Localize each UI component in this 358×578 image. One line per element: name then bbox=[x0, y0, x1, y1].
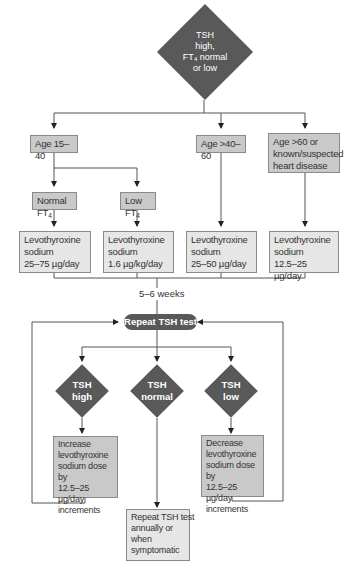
subscript: 4 bbox=[48, 212, 51, 219]
decision-text: high bbox=[72, 391, 92, 403]
box-text: Increase bbox=[58, 439, 113, 450]
box-text: sodium bbox=[191, 246, 252, 258]
decision-text: TSH bbox=[196, 30, 214, 41]
box-text: sodium bbox=[24, 246, 86, 258]
box-text: Levothyroxine bbox=[191, 234, 252, 246]
dose-box-low-ft4: Levothyroxine sodium 1.6 µg/kg/day bbox=[103, 231, 174, 273]
outcome-tsh-normal: TSH normal bbox=[130, 364, 184, 418]
decision-text: TSH bbox=[148, 379, 167, 391]
box-text: annually or bbox=[131, 523, 185, 534]
box-text: levothyroxine bbox=[206, 449, 259, 460]
box-text: when bbox=[131, 534, 185, 545]
box-text: heart disease bbox=[273, 160, 335, 172]
start-decision-tsh-high: TSH high, FT₄ normal or low bbox=[168, 4, 242, 100]
repeat-tsh-test-node: Repeat TSH test bbox=[124, 314, 197, 330]
box-text: levothyroxine bbox=[58, 450, 113, 461]
box-text: sodium dose by bbox=[58, 461, 113, 483]
age-40-60-box: Age >40–60 bbox=[196, 135, 246, 153]
box-text: increments bbox=[58, 505, 113, 516]
box-text: 12.5–25 µg/day bbox=[274, 258, 334, 282]
increase-dose-box: Increase levothyroxine sodium dose by 12… bbox=[53, 436, 118, 498]
box-text: 1.6 µg/kg/day bbox=[108, 258, 169, 270]
decision-text: low bbox=[223, 391, 239, 403]
box-text: 12.5–25 µg/day bbox=[58, 483, 113, 505]
box-text: 25–50 µg/day bbox=[191, 258, 252, 270]
box-text: Levothyroxine bbox=[108, 234, 169, 246]
dose-box-age-40-60: Levothyroxine sodium 25–50 µg/day bbox=[186, 231, 257, 273]
box-text: Decrease bbox=[206, 438, 259, 449]
box-text: sodium bbox=[108, 246, 169, 258]
age-60-heart-disease-box: Age >60 or known/suspected heart disease bbox=[268, 133, 340, 173]
box-text: 12.5–25 µg/day bbox=[206, 482, 259, 504]
box-text: Levothyroxine bbox=[274, 234, 334, 246]
decision-text: normal bbox=[141, 391, 173, 403]
interval-label: 5–6 weeks bbox=[139, 288, 184, 299]
box-text: Repeat TSH test bbox=[131, 512, 185, 523]
decrease-dose-box: Decrease levothyroxine sodium dose by 12… bbox=[201, 435, 264, 497]
decision-text: FT₄ normal bbox=[183, 52, 228, 63]
repeat-annually-box: Repeat TSH test annually or when symptom… bbox=[126, 509, 190, 561]
box-text: increments bbox=[206, 504, 259, 515]
dose-box-age-60: Levothyroxine sodium 12.5–25 µg/day bbox=[269, 231, 339, 273]
decision-text: TSH bbox=[73, 379, 92, 391]
box-text: sodium dose by bbox=[206, 460, 259, 482]
box-text: sodium bbox=[274, 246, 334, 258]
outcome-tsh-high: TSH high bbox=[55, 364, 109, 418]
decision-text: high, bbox=[195, 41, 215, 52]
subscript: 4 bbox=[136, 212, 139, 219]
age-15-40-box: Age 15–40 bbox=[30, 135, 78, 153]
low-ft4-box: Low FT4 bbox=[120, 192, 156, 210]
box-text: known/suspected bbox=[273, 148, 335, 160]
outcome-tsh-low: TSH low bbox=[204, 364, 258, 418]
box-text: 25–75 µg/day bbox=[24, 258, 86, 270]
dose-box-normal-ft4: Levothyroxine sodium 25–75 µg/day bbox=[19, 231, 91, 273]
box-text: Levothyroxine bbox=[24, 234, 86, 246]
normal-ft4-box: Normal FT4 bbox=[32, 192, 77, 210]
box-text: Age >60 or bbox=[273, 136, 335, 148]
box-text: symptomatic bbox=[131, 545, 185, 556]
decision-text: TSH bbox=[222, 379, 241, 391]
decision-text: or low bbox=[193, 63, 217, 74]
